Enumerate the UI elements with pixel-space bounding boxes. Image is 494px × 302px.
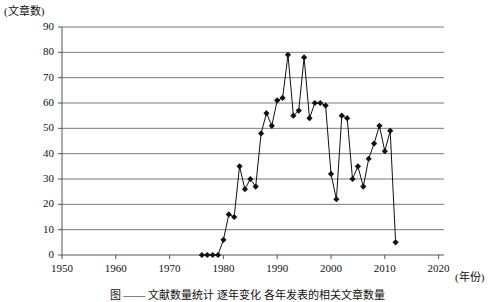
y-tick-label-40: 40 [28,147,54,159]
x-tick-label-2000: 2000 [311,262,351,274]
chart-figure: (文章数) (年份) 01020304050607080901950196019… [0,0,494,302]
y-tick-label-0: 0 [28,248,54,260]
y-tick-label-30: 30 [28,172,54,184]
y-tick-label-20: 20 [28,197,54,209]
x-tick-label-2020: 2020 [419,262,459,274]
x-tick-label-1990: 1990 [257,262,297,274]
plot-area [0,0,494,302]
x-tick-label-1960: 1960 [96,262,136,274]
y-tick-label-80: 80 [28,45,54,57]
y-tick-label-10: 10 [28,223,54,235]
x-tick-label-1950: 1950 [42,262,82,274]
y-tick-label-70: 70 [28,71,54,83]
y-tick-label-60: 60 [28,96,54,108]
x-tick-label-1980: 1980 [203,262,243,274]
y-tick-label-90: 90 [28,20,54,32]
x-tick-label-1970: 1970 [150,262,190,274]
y-tick-label-50: 50 [28,121,54,133]
figure-caption: 图 —— 文献数量统计 逐年变化 各年发表的相关文章数量 [0,286,494,302]
x-tick-label-2010: 2010 [365,262,405,274]
